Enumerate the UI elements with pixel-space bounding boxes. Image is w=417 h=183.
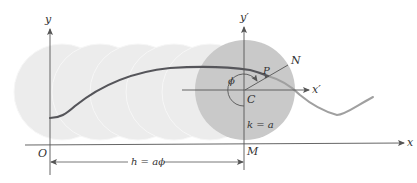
x-axis bbox=[25, 143, 404, 145]
origin-label: O bbox=[38, 147, 47, 160]
y-prime-axis-label: y′ bbox=[239, 11, 249, 24]
point-n-label: N bbox=[290, 54, 301, 67]
point-p-marker bbox=[265, 76, 268, 79]
radius-equation: k = a bbox=[247, 119, 274, 130]
point-m-label: M bbox=[246, 145, 259, 158]
rolling-circle-diagram: y x O y′ x′ C P N M ϕ k = a h = aϕ bbox=[0, 0, 417, 183]
point-p-label: P bbox=[262, 65, 270, 76]
angle-label: ϕ bbox=[228, 75, 235, 86]
distance-equation: h = aϕ bbox=[131, 156, 165, 167]
x-prime-axis-label: x′ bbox=[312, 83, 321, 96]
center-label: C bbox=[247, 93, 256, 106]
y-axis-label: y bbox=[44, 13, 52, 26]
x-axis-label: x bbox=[407, 136, 414, 149]
